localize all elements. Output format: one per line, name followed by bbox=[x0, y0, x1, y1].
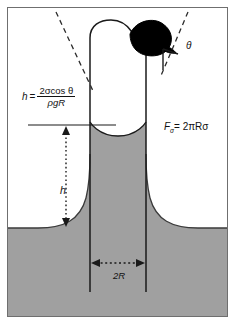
height-equation-denominator: ρgR bbox=[46, 97, 68, 107]
tube-top-rim bbox=[90, 20, 132, 38]
rise-height-label: h bbox=[60, 185, 66, 196]
height-equation-numerator: 2σcos θ bbox=[37, 86, 75, 96]
height-equation-fraction: 2σcos θ ρgR bbox=[37, 86, 75, 108]
height-equation: h = 2σcos θ ρgR bbox=[22, 86, 75, 108]
height-equation-lhs: h bbox=[22, 92, 28, 102]
height-equation-equals: = bbox=[30, 92, 36, 102]
contact-angle-label: θ bbox=[186, 41, 191, 51]
diameter-label: 2R bbox=[113, 271, 125, 281]
figure-frame: h = 2σcos θ ρgR Fσ= 2πRσ θ h 2R bbox=[7, 7, 228, 317]
force-equation: Fσ= 2πRσ bbox=[164, 122, 209, 135]
rise-arrowhead-top bbox=[62, 126, 70, 135]
liquid-body bbox=[8, 122, 227, 316]
force-equation-rhs: = 2πRσ bbox=[174, 121, 208, 132]
dashed-guide-left bbox=[56, 12, 94, 93]
figure-container: h = 2σcos θ ρgR Fσ= 2πRσ θ h 2R bbox=[0, 0, 237, 326]
